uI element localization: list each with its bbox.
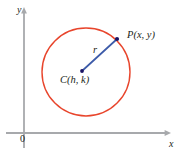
point-p-label: P(x, y) [127,30,155,41]
circle-diagram-figure: y x 0 P(x, y) C(h, k) r [0,0,183,162]
y-axis-arrowhead-icon [21,7,27,13]
center-point-dot [80,69,84,73]
point-p-dot [115,37,119,41]
circle-shape [42,28,130,116]
x-axis-label: x [169,139,173,149]
center-c-label: C(h, k) [60,75,89,86]
y-axis-label: y [17,5,21,15]
radius-label: r [93,45,97,56]
x-axis [6,130,171,136]
radius-segment [82,39,117,71]
origin-label: 0 [20,134,25,144]
x-axis-arrowhead-icon [165,130,171,136]
figure-canvas [0,0,183,162]
y-axis [21,7,27,148]
